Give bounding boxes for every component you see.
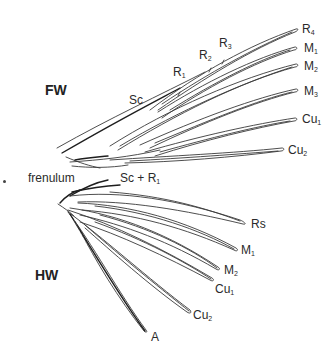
vein-label-sc-r1: Sc + R1 (120, 172, 160, 185)
vein-label-fw-cu2: Cu2 (288, 144, 307, 157)
hindwing-label: HW (35, 268, 58, 282)
vein-label-r2: R2 (199, 49, 212, 62)
vein-label-fw-cu1: Cu1 (302, 113, 321, 126)
vein-label-hw-m1: M1 (241, 244, 255, 257)
vein-label-hw-cu2: Cu2 (193, 309, 212, 322)
wing-venation-diagram: FW Sc R1 R2 R3 R4 M1 M2 M3 Cu1 Cu2 frenu… (0, 0, 336, 349)
vein-label-hw-cu1: Cu1 (215, 283, 234, 296)
vein-label-a: A (151, 331, 159, 344)
hindwing-veins (58, 185, 245, 332)
vein-label-r1: R1 (173, 66, 186, 79)
forewing-veins (57, 29, 298, 168)
vein-label-fw-m3: M3 (304, 85, 318, 98)
vein-label-sc: Sc (129, 94, 143, 106)
vein-label-hw-m2: M2 (224, 264, 238, 277)
forewing-label: FW (45, 83, 67, 97)
vein-label-r3: R3 (219, 37, 232, 50)
vein-label-fw-m2: M2 (304, 60, 318, 73)
vein-label-fw-m1: M1 (304, 42, 318, 55)
marker-dot (3, 180, 6, 183)
vein-label-r4: R4 (302, 23, 315, 36)
vein-label-rs: Rs (251, 218, 266, 231)
frenulum-label: frenulum (28, 172, 75, 184)
